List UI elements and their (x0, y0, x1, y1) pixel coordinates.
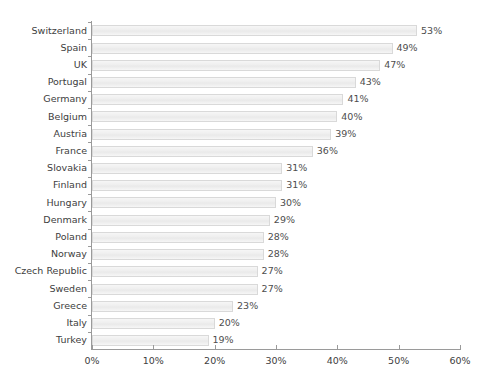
category-label-sweden: Sweden (49, 282, 87, 296)
bar-row: 53% (92, 22, 460, 40)
y-axis-tick (88, 108, 92, 109)
bar-value-label: 30% (280, 196, 301, 210)
x-axis-tick-label: 10% (143, 354, 164, 367)
y-axis-tick (88, 297, 92, 298)
bar-value-label: 39% (335, 127, 356, 141)
bar-row: 40% (92, 108, 460, 126)
bar (92, 249, 264, 260)
bar-row: 29% (92, 211, 460, 229)
y-axis-category-labels: SwitzerlandSpainUKPortugalGermanyBelgium… (0, 22, 87, 349)
bar (92, 129, 331, 140)
y-axis-tick (88, 22, 92, 23)
x-axis-tick (215, 345, 216, 350)
bar-value-label: 23% (237, 299, 258, 313)
y-axis-tick (88, 160, 92, 161)
category-label-turkey: Turkey (56, 333, 87, 347)
category-label-hungary: Hungary (46, 196, 87, 210)
bar (92, 301, 233, 312)
y-axis-tick (88, 263, 92, 264)
y-axis-tick (88, 177, 92, 178)
y-axis-tick (88, 229, 92, 230)
category-label-italy: Italy (66, 316, 87, 330)
bar-value-label: 40% (341, 110, 362, 124)
bar-value-label: 31% (286, 161, 307, 175)
category-label-greece: Greece (53, 299, 87, 313)
bar-value-label: 19% (213, 333, 234, 347)
bar (92, 146, 313, 157)
bar (92, 94, 343, 105)
bar-row: 20% (92, 315, 460, 333)
category-label-portugal: Portugal (48, 75, 87, 89)
bar-row: 31% (92, 160, 460, 178)
x-axis-tick (460, 345, 461, 350)
bar-value-label: 49% (397, 41, 418, 55)
category-label-uk: UK (74, 58, 87, 72)
bar-value-label: 53% (421, 24, 442, 38)
y-axis-tick (88, 211, 92, 212)
bar (92, 77, 356, 88)
category-label-finland: Finland (53, 178, 87, 192)
bar-row: 27% (92, 280, 460, 298)
bar-chart: SwitzerlandSpainUKPortugalGermanyBelgium… (0, 0, 496, 384)
bar (92, 180, 282, 191)
bar-row: 30% (92, 194, 460, 212)
bar-value-label: 27% (262, 264, 283, 278)
x-axis-tick (153, 345, 154, 350)
x-axis-tick-label: 40% (327, 354, 348, 367)
bar-value-label: 28% (268, 247, 289, 261)
y-axis-tick (88, 91, 92, 92)
bar-value-label: 43% (360, 75, 381, 89)
y-axis-tick (88, 74, 92, 75)
bar (92, 335, 209, 346)
bar-row: 49% (92, 39, 460, 57)
bar-value-label: 27% (262, 282, 283, 296)
bar (92, 284, 258, 295)
category-label-poland: Poland (55, 230, 87, 244)
x-axis-tick (337, 345, 338, 350)
plot-area: 53%49%47%43%41%40%39%36%31%31%30%29%28%2… (92, 22, 460, 349)
y-axis-tick (88, 125, 92, 126)
bar (92, 318, 215, 329)
y-axis-tick (88, 315, 92, 316)
bar (92, 60, 380, 71)
y-axis-tick (88, 246, 92, 247)
category-label-germany: Germany (43, 92, 87, 106)
bar-value-label: 36% (317, 144, 338, 158)
x-axis-labels: 0%10%20%30%40%50%60% (0, 350, 496, 372)
category-label-slovakia: Slovakia (47, 161, 87, 175)
x-axis-tick-label: 0% (84, 354, 99, 367)
y-axis-tick (88, 194, 92, 195)
bar (92, 266, 258, 277)
bar-row: 23% (92, 297, 460, 315)
category-label-france: France (55, 144, 87, 158)
bar (92, 232, 264, 243)
x-axis-tick (276, 345, 277, 350)
bar-value-label: 41% (347, 92, 368, 106)
bar (92, 111, 337, 122)
y-axis-tick (88, 142, 92, 143)
bar-value-label: 28% (268, 230, 289, 244)
bar-row: 36% (92, 142, 460, 160)
x-axis-tick-label: 60% (449, 354, 470, 367)
category-label-spain: Spain (60, 41, 87, 55)
y-axis-tick (88, 280, 92, 281)
bar-row: 47% (92, 56, 460, 74)
bar-value-label: 20% (219, 316, 240, 330)
y-axis-tick (88, 332, 92, 333)
x-axis-tick-label: 20% (204, 354, 225, 367)
bar-row: 43% (92, 74, 460, 92)
x-axis-tick (399, 345, 400, 350)
bar-row: 27% (92, 263, 460, 281)
x-axis-tick-label: 50% (388, 354, 409, 367)
bar (92, 43, 393, 54)
bar-row: 28% (92, 229, 460, 247)
category-label-czech-republic: Czech Republic (15, 264, 87, 278)
bar-row: 39% (92, 125, 460, 143)
category-label-belgium: Belgium (48, 110, 87, 124)
x-axis-tick (92, 345, 93, 350)
bar-value-label: 47% (384, 58, 405, 72)
category-label-denmark: Denmark (43, 213, 87, 227)
category-label-austria: Austria (53, 127, 87, 141)
bar-value-label: 31% (286, 178, 307, 192)
category-label-norway: Norway (51, 247, 87, 261)
